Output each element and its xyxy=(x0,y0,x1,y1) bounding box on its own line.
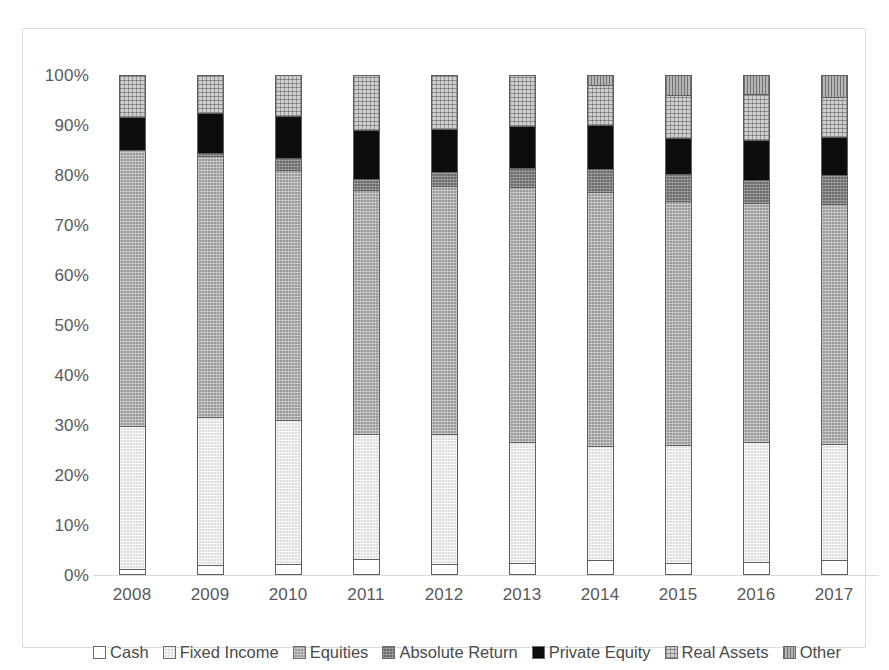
y-axis-tick-label: 90% xyxy=(29,117,89,134)
bar-segment-private-equity[interactable] xyxy=(119,117,146,150)
bar-segment-cash[interactable] xyxy=(119,569,146,575)
bar-2010[interactable] xyxy=(275,75,302,575)
bar-segment-private-equity[interactable] xyxy=(509,126,536,168)
legend-item-equities[interactable]: Equities xyxy=(293,644,369,661)
bar-segment-fixed-income[interactable] xyxy=(353,434,380,559)
bar-segment-cash[interactable] xyxy=(197,565,224,575)
bar-segment-cash[interactable] xyxy=(353,559,380,576)
x-axis-tick-label: 2008 xyxy=(95,585,169,605)
bar-segment-real-assets[interactable] xyxy=(665,95,692,138)
bar-segment-other[interactable] xyxy=(743,75,770,94)
x-axis-tick-label: 2011 xyxy=(329,585,403,605)
bar-segment-cash[interactable] xyxy=(743,562,770,576)
bar-2009[interactable] xyxy=(197,75,224,575)
bar-segment-equities[interactable] xyxy=(665,201,692,446)
legend-item-label: Fixed Income xyxy=(180,644,279,661)
bar-segment-absolute-return[interactable] xyxy=(587,169,614,193)
y-axis-tick-label: 50% xyxy=(29,317,89,334)
bar-segment-fixed-income[interactable] xyxy=(119,426,146,569)
bar-segment-equities[interactable] xyxy=(509,187,536,442)
bar-segment-cash[interactable] xyxy=(431,564,458,576)
legend-swatch-icon xyxy=(665,646,678,659)
bar-segment-equities[interactable] xyxy=(587,192,614,446)
y-axis-tick-label: 80% xyxy=(29,167,89,184)
bar-segment-equities[interactable] xyxy=(353,190,380,434)
bar-segment-fixed-income[interactable] xyxy=(743,442,770,562)
bar-segment-fixed-income[interactable] xyxy=(587,446,614,560)
bar-segment-real-assets[interactable] xyxy=(821,97,848,137)
bar-segment-fixed-income[interactable] xyxy=(509,442,536,564)
legend-swatch-icon xyxy=(163,646,176,659)
bar-segment-equities[interactable] xyxy=(275,170,302,420)
bar-segment-cash[interactable] xyxy=(509,563,536,575)
x-axis-tick-label: 2015 xyxy=(641,585,715,605)
x-axis-tick-label: 2012 xyxy=(407,585,481,605)
bar-segment-private-equity[interactable] xyxy=(743,140,770,181)
bar-segment-absolute-return[interactable] xyxy=(431,172,458,187)
bar-segment-absolute-return[interactable] xyxy=(275,158,302,171)
bar-segment-absolute-return[interactable] xyxy=(743,180,770,203)
bar-segment-absolute-return[interactable] xyxy=(821,175,848,205)
bar-segment-absolute-return[interactable] xyxy=(509,168,536,188)
bar-segment-real-assets[interactable] xyxy=(197,75,224,113)
bar-segment-cash[interactable] xyxy=(665,563,692,575)
bar-segment-real-assets[interactable] xyxy=(743,94,770,140)
bar-segment-equities[interactable] xyxy=(431,186,458,434)
bar-segment-private-equity[interactable] xyxy=(197,113,224,153)
bar-2012[interactable] xyxy=(431,75,458,575)
bar-segment-equities[interactable] xyxy=(119,150,146,426)
bar-segment-cash[interactable] xyxy=(821,560,848,575)
legend-item-fixed-income[interactable]: Fixed Income xyxy=(163,644,279,661)
bar-segment-real-assets[interactable] xyxy=(431,75,458,129)
bar-segment-other[interactable] xyxy=(587,75,614,85)
bar-segment-real-assets[interactable] xyxy=(275,75,302,116)
bar-2014[interactable] xyxy=(587,75,614,575)
bar-segment-real-assets[interactable] xyxy=(509,75,536,126)
legend-item-other[interactable]: Other xyxy=(783,644,841,661)
x-axis-tick-label: 2009 xyxy=(173,585,247,605)
bar-2016[interactable] xyxy=(743,75,770,575)
x-axis-line xyxy=(93,575,879,576)
bar-2013[interactable] xyxy=(509,75,536,575)
bar-2017[interactable] xyxy=(821,75,848,575)
bar-segment-fixed-income[interactable] xyxy=(431,434,458,564)
bar-segment-equities[interactable] xyxy=(197,156,224,417)
bar-segment-private-equity[interactable] xyxy=(275,116,302,158)
legend-item-cash[interactable]: Cash xyxy=(93,644,149,661)
y-axis-tick-label: 20% xyxy=(29,467,89,484)
bar-segment-private-equity[interactable] xyxy=(587,125,614,169)
bar-2015[interactable] xyxy=(665,75,692,575)
stacked-bar-chart: 0%10%20%30%40%50%60%70%80%90%100% 200820… xyxy=(0,0,889,670)
bar-segment-other[interactable] xyxy=(821,75,848,97)
bar-segment-equities[interactable] xyxy=(821,204,848,444)
bar-segment-fixed-income[interactable] xyxy=(197,417,224,566)
bar-segment-real-assets[interactable] xyxy=(353,75,380,130)
bar-segment-absolute-return[interactable] xyxy=(197,153,224,157)
legend-item-private-equity[interactable]: Private Equity xyxy=(532,644,651,661)
bar-segment-absolute-return[interactable] xyxy=(353,179,380,190)
legend-item-real-assets[interactable]: Real Assets xyxy=(665,644,769,661)
bar-segment-cash[interactable] xyxy=(275,564,302,575)
bar-segment-cash[interactable] xyxy=(587,560,614,575)
bar-segment-absolute-return[interactable] xyxy=(665,174,692,201)
x-axis-tick-label: 2016 xyxy=(719,585,793,605)
bar-segment-private-equity[interactable] xyxy=(353,130,380,180)
y-axis-tick-label: 0% xyxy=(29,567,89,584)
plot-area xyxy=(93,75,873,575)
bar-segment-other[interactable] xyxy=(665,75,692,95)
bar-segment-real-assets[interactable] xyxy=(119,75,146,117)
bar-segment-private-equity[interactable] xyxy=(431,129,458,172)
bar-2011[interactable] xyxy=(353,75,380,575)
bar-segment-real-assets[interactable] xyxy=(587,85,614,126)
bar-segment-fixed-income[interactable] xyxy=(665,445,692,563)
x-axis-tick-label: 2010 xyxy=(251,585,325,605)
y-axis-tick-label: 40% xyxy=(29,367,89,384)
bar-segment-equities[interactable] xyxy=(743,203,770,442)
legend-item-absolute-return[interactable]: Absolute Return xyxy=(382,644,517,661)
bar-segment-fixed-income[interactable] xyxy=(821,444,848,561)
bar-segment-private-equity[interactable] xyxy=(665,138,692,174)
bar-segment-private-equity[interactable] xyxy=(821,137,848,175)
bar-segment-fixed-income[interactable] xyxy=(275,420,302,564)
legend-swatch-icon xyxy=(293,646,306,659)
bar-2008[interactable] xyxy=(119,75,146,575)
